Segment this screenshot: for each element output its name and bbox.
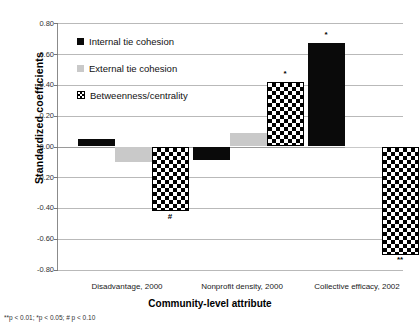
y-tick-label: 0.80 — [20, 19, 54, 28]
y-tick-mark — [54, 270, 58, 271]
y-tick-mark — [54, 208, 58, 209]
x-axis-title: Community-level attribute — [0, 298, 420, 309]
y-tick-label: 0.00 — [20, 142, 54, 151]
y-tick-mark — [54, 116, 58, 117]
legend-item-betweenness-centrality: Betweenness/centrality — [77, 85, 188, 105]
y-tick-label: -0.80 — [20, 265, 54, 274]
significance-marker-g3-betweenness: ** — [380, 256, 420, 264]
legend-label: Betweenness/centrality — [90, 90, 188, 101]
bar-external-tie-cohesion-g3 — [345, 147, 382, 149]
legend-swatch-checkered-icon — [77, 91, 85, 99]
y-tick-mark — [54, 239, 58, 240]
y-tick-label: -0.60 — [20, 234, 54, 243]
y-tick-mark — [54, 54, 58, 55]
bar-betweenness-centrality-g1 — [152, 147, 189, 212]
gridline-0.20 — [58, 116, 403, 117]
y-tick-mark — [54, 85, 58, 86]
gridline--0.60 — [58, 239, 403, 240]
significance-marker-g2-betweenness: * — [265, 70, 305, 78]
bar-internal-tie-cohesion-g2 — [193, 147, 230, 161]
y-tick-mark — [54, 147, 58, 148]
legend-label: Internal tie cohesion — [89, 36, 174, 47]
y-tick-mark — [54, 177, 58, 178]
gridline--0.80 — [58, 270, 403, 271]
y-tick-label: -0.20 — [20, 173, 54, 182]
legend-label: External tie cohesion — [89, 63, 177, 74]
bar-internal-tie-cohesion-g3 — [308, 43, 345, 146]
legend-item-internal-tie-cohesion: Internal tie cohesion — [77, 31, 188, 51]
y-tick-label: -0.40 — [20, 203, 54, 212]
legend-swatch-black-icon — [77, 38, 84, 45]
bar-external-tie-cohesion-g2 — [230, 133, 267, 147]
y-tick-label: 0.40 — [20, 80, 54, 89]
bar-betweenness-centrality-g3 — [382, 147, 419, 255]
legend-item-external-tie-cohesion: External tie cohesion — [77, 58, 188, 78]
y-tick-label: 0.60 — [20, 50, 54, 59]
bar-internal-tie-cohesion-g1 — [78, 139, 115, 147]
x-category-label-1: Disadvantage, 2000 — [62, 282, 192, 291]
significance-marker-g1-betweenness: # — [150, 213, 190, 221]
bar-chart: Standardized coefficients 0.80 0.60 0.40… — [0, 0, 420, 329]
gridline--0.20 — [58, 177, 403, 178]
footnote: **p < 0.01; *p < 0.05; # p < 0.10 — [4, 314, 95, 321]
y-tick-mark — [54, 23, 58, 24]
bar-external-tie-cohesion-g1 — [115, 147, 152, 162]
legend-swatch-gray-icon — [77, 65, 84, 72]
significance-marker-g3-internal: * — [306, 31, 346, 39]
legend: Internal tie cohesion External tie cohes… — [77, 31, 188, 112]
gridline--0.40 — [58, 208, 403, 209]
gridline-0.80 — [58, 23, 403, 24]
x-category-label-2: Nonprofit density, 2000 — [177, 282, 307, 291]
y-tick-label: 0.20 — [20, 111, 54, 120]
x-category-label-3: Collective efficacy, 2002 — [292, 282, 420, 291]
bar-betweenness-centrality-g2 — [267, 82, 304, 147]
